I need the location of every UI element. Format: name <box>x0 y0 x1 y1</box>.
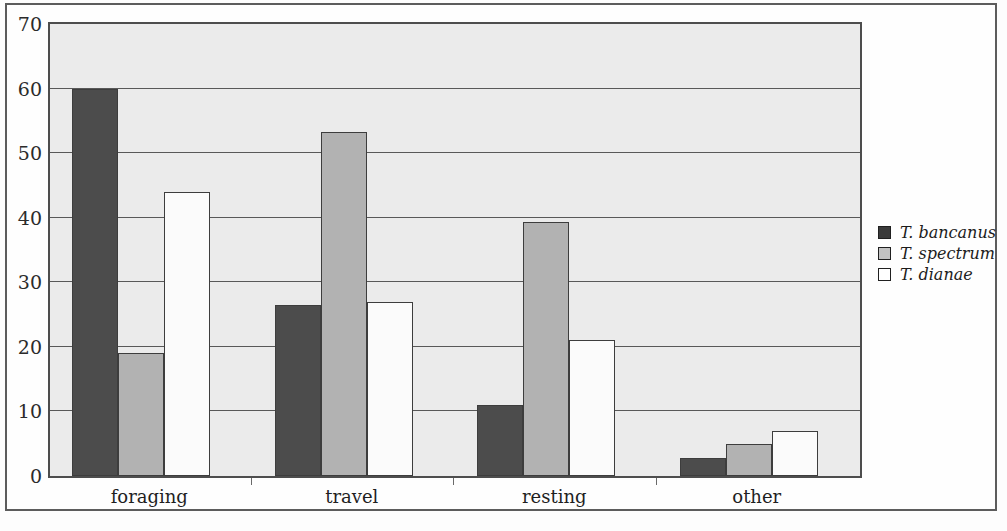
x-tick-mark <box>656 478 657 485</box>
white-swatch <box>878 268 891 281</box>
medium-gray-swatch <box>878 247 891 260</box>
legend-item: T. bancanus <box>878 222 998 243</box>
bar <box>321 132 367 476</box>
bar <box>164 192 210 476</box>
dark-gray-swatch <box>878 226 891 239</box>
y-tick-label: 30 <box>2 271 42 293</box>
x-tick-label: resting <box>522 486 587 507</box>
bar <box>772 431 818 476</box>
y-tick-label: 70 <box>2 13 42 35</box>
legend-item: T. dianae <box>878 264 998 285</box>
y-tick-label: 20 <box>2 336 42 358</box>
x-tick-label: other <box>732 486 781 507</box>
x-tick-mark <box>251 478 252 485</box>
bar <box>726 444 772 476</box>
gridline <box>50 88 860 89</box>
y-tick-label: 10 <box>2 400 42 422</box>
legend-item-label: T. spectrum <box>900 244 995 263</box>
figure: 010203040506070 foragingtravelrestingoth… <box>0 0 1007 531</box>
bar <box>72 89 118 476</box>
y-axis: 010203040506070 <box>0 22 42 478</box>
legend-item-label: T. bancanus <box>900 223 996 242</box>
x-tick-mark <box>453 478 454 485</box>
legend-item-label: T. dianae <box>900 265 973 284</box>
bar <box>275 305 321 476</box>
bar <box>367 302 413 476</box>
y-tick-label: 60 <box>2 78 42 100</box>
bar <box>569 340 615 476</box>
plot-area <box>48 22 862 478</box>
x-axis: foragingtravelrestingother <box>48 478 862 518</box>
legend-item: T. spectrum <box>878 243 998 264</box>
x-tick-label: foraging <box>111 486 188 507</box>
y-tick-label: 0 <box>2 465 42 487</box>
bar <box>523 222 569 476</box>
chart-legend: T. bancanusT. spectrumT. dianae <box>878 222 998 285</box>
x-tick-label: travel <box>325 486 378 507</box>
bar <box>118 353 164 476</box>
bar <box>477 405 523 476</box>
gridline <box>50 152 860 153</box>
bar <box>680 458 726 476</box>
y-tick-label: 40 <box>2 207 42 229</box>
y-tick-label: 50 <box>2 142 42 164</box>
